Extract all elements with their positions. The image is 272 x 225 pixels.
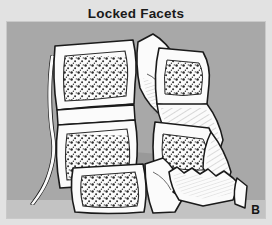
dislocated-vertebral-body-upper	[155, 48, 209, 106]
lower-vertebral-body	[71, 164, 146, 214]
locked-facets-figure: Locked Facets	[0, 0, 272, 225]
upper-vertebral-body-1	[54, 40, 136, 110]
illustration-panel: B	[6, 21, 266, 219]
panel-label: B	[251, 203, 260, 217]
figure-title: Locked Facets	[0, 6, 272, 21]
spine-illustration-svg	[7, 22, 265, 218]
